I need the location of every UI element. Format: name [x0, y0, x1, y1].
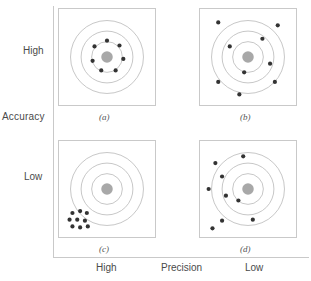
x-axis-tick-high: High — [96, 262, 117, 273]
data-point — [236, 198, 240, 202]
data-point — [228, 44, 232, 48]
target-panel-d — [199, 140, 297, 238]
data-point — [86, 224, 90, 228]
target-bullseye — [101, 51, 113, 63]
data-point — [220, 174, 224, 178]
panel-caption-b: (b) — [240, 112, 251, 122]
target-bullseye — [101, 183, 113, 195]
target-panel-c — [58, 140, 156, 238]
data-point — [78, 209, 82, 213]
target-bullseye — [242, 51, 254, 63]
x-axis-line — [53, 257, 309, 258]
data-point — [70, 211, 74, 215]
data-point — [121, 57, 125, 61]
target-graphic-b — [200, 9, 296, 105]
data-point — [85, 211, 89, 215]
data-point — [91, 59, 95, 63]
data-point — [273, 80, 277, 84]
data-point — [224, 194, 228, 198]
data-point — [92, 44, 96, 48]
target-graphic-d — [200, 141, 296, 237]
data-point — [216, 20, 220, 24]
data-point — [207, 187, 211, 191]
data-point — [78, 225, 82, 229]
data-point — [268, 62, 272, 66]
target-panel-b — [199, 8, 297, 106]
data-point — [220, 219, 224, 223]
data-point — [99, 68, 103, 72]
data-point — [276, 23, 280, 27]
y-axis-tick-high: High — [23, 45, 44, 56]
panel-caption-d: (d) — [240, 244, 251, 254]
data-point — [242, 70, 246, 74]
accuracy-precision-figure: Accuracy High Low High Precision Low (a)… — [0, 0, 311, 281]
y-axis-tick-low: Low — [24, 171, 42, 182]
data-point — [213, 161, 217, 165]
target-panel-a — [58, 8, 156, 106]
data-point — [251, 218, 255, 222]
data-point — [237, 92, 241, 96]
data-point — [241, 154, 245, 158]
data-point — [210, 226, 214, 230]
data-point — [114, 68, 118, 72]
data-point — [216, 80, 220, 84]
data-point — [117, 43, 121, 47]
data-point — [70, 224, 74, 228]
data-point — [105, 39, 109, 43]
data-point — [67, 218, 71, 222]
data-point — [83, 219, 87, 223]
target-bullseye — [242, 183, 254, 195]
target-graphic-c — [59, 141, 155, 237]
panel-caption-a: (a) — [99, 112, 110, 122]
data-point — [75, 218, 79, 222]
y-axis-label: Accuracy — [2, 111, 45, 122]
data-point — [260, 37, 264, 41]
x-axis-label: Precision — [161, 262, 202, 273]
panel-caption-c: (c) — [99, 244, 109, 254]
target-graphic-a — [59, 9, 155, 105]
x-axis-tick-low: Low — [245, 262, 263, 273]
y-axis-line — [53, 6, 54, 258]
